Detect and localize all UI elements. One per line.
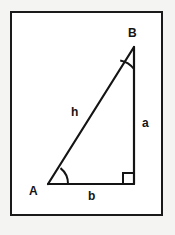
side-label-b: b	[88, 190, 95, 202]
side-label-h: h	[71, 106, 78, 118]
vertex-label-a: A	[29, 185, 38, 197]
vertex-label-b: B	[128, 27, 137, 39]
angle-arc-a	[61, 168, 69, 184]
diagram-page: B A h a b	[0, 0, 175, 235]
side-hypotenuse-line	[48, 47, 134, 184]
right-angle-marker-c	[123, 173, 134, 184]
side-label-a: a	[142, 117, 149, 129]
